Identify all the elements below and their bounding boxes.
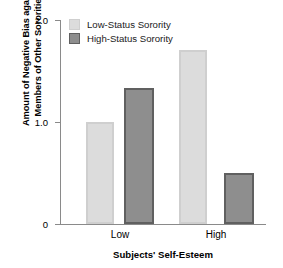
legend-swatch-high-status [69,33,80,44]
legend-label-high-status: High-Status Sorority [87,33,173,44]
legend-swatch-low-status [69,19,80,30]
bar-high-highstatus [224,173,254,224]
bar-high-lowstatus [179,50,207,224]
y-tick-0: 0 [55,224,60,225]
bars-container [61,20,266,224]
y-tick-label-0: 0 [43,218,48,229]
y-tick-label-2: 2.0 [35,15,48,26]
legend-label-low-status: Low-Status Sorority [87,19,171,30]
legend-item-high-status: High-Status Sorority [69,31,173,45]
legend-item-low-status: Low-Status Sorority [69,17,173,31]
bar-low-highstatus [124,88,154,223]
y-axis-title-line1: Amount of Negative Bias against [21,0,33,126]
x-tick-label-low: Low [111,229,129,240]
y-tick-label-1: 1.0 [35,117,48,128]
bar-low-lowstatus [86,122,114,224]
y-tick-2: 2.0 [55,20,60,21]
x-tick-label-high: High [206,229,227,240]
y-tick-1: 1.0 [55,122,60,123]
chart-legend: Low-Status Sorority High-Status Sorority [69,17,173,45]
x-axis-line [60,224,266,225]
plot-area: 2.0 1.0 0 Low High [60,20,266,225]
bar-chart-figure: Amount of Negative Bias against Members … [0,0,283,268]
x-axis-title: Subjects' Self-Esteem [60,249,266,260]
